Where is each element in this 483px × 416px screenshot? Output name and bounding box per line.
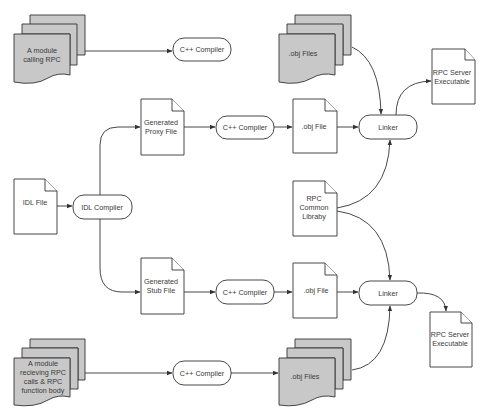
- node-obj-file-stub[interactable]: .obj File: [293, 263, 337, 318]
- node-obj-files-bottom[interactable]: .obj Files: [279, 339, 351, 406]
- node-label-line: Libraby: [302, 212, 326, 221]
- node-linker-top[interactable]: Linker: [359, 115, 417, 139]
- node-obj-files-top[interactable]: .obj Files: [279, 15, 351, 83]
- node-linker-bottom[interactable]: Linker: [359, 281, 417, 305]
- edge-obj-files-top-to-linker: [352, 47, 381, 114]
- edge-idl-compiler-to-proxy: [100, 127, 140, 195]
- node-label-line: Generated: [144, 118, 178, 127]
- node-idl-compiler[interactable]: IDL Compiler: [73, 195, 132, 219]
- node-idl-file[interactable]: IDL File: [14, 179, 57, 234]
- node-label-line: RPC: [306, 194, 321, 203]
- node-label-line: RPC Server: [431, 330, 470, 339]
- edge-idl-compiler-to-stub: [100, 218, 140, 292]
- node-label-line: Generated: [144, 277, 178, 286]
- node-label: Linker: [378, 289, 398, 298]
- node-label: Linker: [378, 123, 398, 132]
- node-cpp-compiler-bottom[interactable]: C++ Compiler: [173, 361, 231, 385]
- edge-common-lib-to-linker-bottom: [337, 211, 390, 280]
- node-label-line: A module: [27, 46, 57, 55]
- node-label-line: Stub File: [147, 286, 175, 295]
- edge-obj-files-bottom-to-linker: [352, 306, 390, 370]
- node-label-line: .obj File: [303, 286, 328, 295]
- node-rpc-common-library[interactable]: RPC Common Libraby: [293, 181, 337, 236]
- edge-common-lib-to-linker-top: [337, 140, 390, 208]
- node-label-line: A module: [28, 359, 58, 368]
- node-label: C++ Compiler: [223, 123, 268, 132]
- node-module-calling-rpc[interactable]: A module calling RPC: [14, 15, 85, 83]
- node-cpp-compiler-top[interactable]: C++ Compiler: [173, 38, 231, 61]
- node-label: C++ Compiler: [223, 288, 268, 297]
- node-label-line: .obj Files: [289, 49, 318, 58]
- node-label-line: function body: [22, 386, 65, 395]
- node-label-line: Common: [299, 203, 328, 212]
- node-rpc-server-exe-top[interactable]: RPC Server Executable: [432, 49, 475, 104]
- node-label-line: IDL File: [23, 198, 48, 207]
- node-obj-file-proxy[interactable]: .obj File: [293, 99, 337, 153]
- node-generated-proxy-file[interactable]: Generated Proxy File: [141, 99, 184, 155]
- node-label-line: Executable: [432, 339, 468, 348]
- node-label-line: calls & RPC: [24, 377, 62, 386]
- node-label-line: .obj Files: [291, 372, 320, 381]
- edge-linker-bottom-to-exe: [417, 293, 446, 311]
- node-label-line: recieving RPC: [20, 368, 66, 377]
- node-label-line: .obj File: [301, 122, 326, 131]
- node-label-line: Executable: [434, 77, 470, 86]
- node-label: C++ Compiler: [180, 45, 225, 54]
- node-cpp-compiler-proxy[interactable]: C++ Compiler: [216, 116, 274, 139]
- node-rpc-server-exe-bottom[interactable]: RPC Server Executable: [430, 312, 472, 367]
- node-label: C++ Compiler: [180, 369, 225, 378]
- edge-linker-top-to-exe: [396, 81, 431, 115]
- node-label-line: RPC Server: [433, 68, 472, 77]
- node-generated-stub-file[interactable]: Generated Stub File: [141, 258, 184, 314]
- rpc-build-flow-diagram: A module calling RPC C++ Compiler .obj F…: [0, 0, 483, 416]
- node-label-line: calling RPC: [23, 55, 61, 64]
- node-label-line: Proxy File: [145, 127, 177, 136]
- node-label: IDL Compiler: [81, 203, 123, 212]
- node-cpp-compiler-stub[interactable]: C++ Compiler: [216, 280, 274, 304]
- node-module-receiving-rpc[interactable]: A module recieving RPC calls & RPC funct…: [14, 339, 85, 406]
